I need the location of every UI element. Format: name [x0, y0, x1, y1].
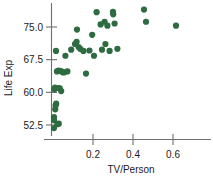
data-point	[143, 19, 149, 25]
y-tick-label: 67.5	[24, 54, 44, 65]
x-axis: 0.20.40.6	[44, 134, 211, 160]
data-point	[94, 9, 100, 15]
data-point	[102, 41, 108, 47]
x-tick-label: 0.6	[166, 149, 180, 160]
data-points-group	[51, 6, 179, 131]
x-tick-label: 0.2	[86, 149, 100, 160]
data-point	[51, 114, 57, 120]
data-point	[62, 53, 68, 59]
data-point	[56, 121, 62, 127]
data-point	[104, 23, 110, 29]
data-point	[64, 68, 70, 74]
data-point	[53, 48, 59, 54]
x-tick-group: 0.20.40.6	[86, 134, 180, 160]
data-point	[107, 48, 113, 54]
x-axis-title: TV/Person	[107, 164, 154, 175]
data-point	[58, 88, 64, 94]
data-point	[112, 20, 118, 26]
data-point	[89, 32, 95, 38]
data-point	[114, 46, 120, 52]
y-tick-label: 60.0	[24, 87, 44, 98]
data-point	[141, 6, 147, 12]
y-axis-title: Life Exp	[3, 59, 14, 96]
data-point	[99, 47, 105, 53]
data-point	[86, 47, 92, 53]
x-tick-label: 0.4	[126, 149, 140, 160]
data-point	[53, 101, 59, 107]
chart-canvas: 52.560.067.575.0 0.20.40.6 TV/Person Lif…	[0, 0, 213, 187]
y-tick-label: 52.5	[24, 120, 44, 131]
scatter-chart-figure: 52.560.067.575.0 0.20.40.6 TV/Person Lif…	[0, 0, 213, 187]
data-point	[173, 23, 179, 29]
data-point	[83, 71, 89, 77]
data-point	[110, 11, 116, 17]
data-point	[91, 53, 97, 59]
data-point	[74, 27, 80, 33]
data-point	[68, 47, 74, 53]
y-tick-label: 75.0	[24, 22, 44, 33]
data-point	[80, 48, 86, 54]
